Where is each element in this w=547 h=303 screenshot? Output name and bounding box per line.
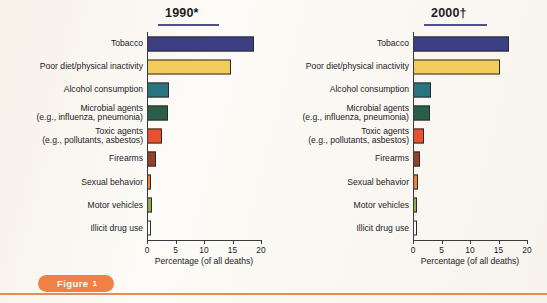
- x-axis-tick-label: 5: [439, 245, 444, 255]
- bar-row: Alcohol consumption: [276, 78, 547, 101]
- bar-row: Poor diet/physical inactivity: [2, 55, 274, 78]
- x-axis-tick-label: 15: [228, 245, 237, 255]
- x-axis-tick: [147, 240, 148, 244]
- bar-row: Microbial agents (e.g., influenza, pneum…: [276, 101, 547, 124]
- x-axis-1990: 05101520 Percentage (of all deaths): [147, 240, 261, 272]
- bar-category-label: Illicit drug use: [2, 224, 147, 233]
- bar-category-label: Toxic agents (e.g., pollutants, asbestos…: [276, 127, 413, 146]
- bar: [147, 36, 254, 51]
- bar-track: [413, 124, 547, 147]
- bar-track: [413, 101, 547, 124]
- bar-track: [147, 194, 274, 217]
- bar-track: [413, 55, 547, 78]
- bar: [413, 105, 430, 120]
- bar: [147, 128, 162, 143]
- x-axis-tick: [413, 240, 414, 244]
- bar-track: [147, 124, 274, 147]
- bar-track: [413, 32, 547, 55]
- bar: [147, 59, 231, 74]
- x-axis-tick-label: 20: [256, 245, 265, 255]
- bar: [413, 36, 509, 51]
- bar: [147, 82, 169, 97]
- bar-row-list-1990: TobaccoPoor diet/physical inactivityAlco…: [2, 32, 274, 240]
- bar-track: [147, 55, 274, 78]
- figure-caption-bar: Figure 1: [0, 272, 547, 303]
- bar-row: Firearms: [2, 148, 274, 171]
- figure-caption-number: 1: [92, 279, 97, 288]
- bar-row: Toxic agents (e.g., pollutants, asbestos…: [276, 124, 547, 147]
- bar: [413, 128, 424, 143]
- plot-area-2000: TobaccoPoor diet/physical inactivityAlco…: [276, 32, 547, 240]
- x-axis-tick: [470, 240, 471, 244]
- x-axis-tick-label: 10: [199, 245, 208, 255]
- bar-track: [147, 78, 274, 101]
- bar-track: [147, 32, 274, 55]
- bar-track: [413, 217, 547, 240]
- bar: [413, 82, 431, 97]
- bar-row: Illicit drug use: [276, 217, 547, 240]
- x-axis-tick-label: 20: [522, 245, 531, 255]
- bar-track: [147, 148, 274, 171]
- bar-category-label: Poor diet/physical inactivity: [276, 62, 413, 71]
- bar-track: [147, 217, 274, 240]
- bar-category-label: Microbial agents (e.g., influenza, pneum…: [276, 104, 413, 123]
- figure-caption-label: Figure: [57, 278, 88, 289]
- bar-category-label: Firearms: [276, 154, 413, 163]
- bar-category-label: Illicit drug use: [276, 224, 413, 233]
- x-axis-tick: [442, 240, 443, 244]
- x-axis-tick: [527, 240, 528, 244]
- bar-row: Motor vehicles: [276, 194, 547, 217]
- bar-track: [413, 78, 547, 101]
- x-axis-tick-label: 10: [465, 245, 474, 255]
- bar-row: Motor vehicles: [2, 194, 274, 217]
- figure-caption-pill: Figure 1: [38, 275, 114, 292]
- bar-category-label: Tobacco: [276, 39, 413, 48]
- bar-category-label: Microbial agents (e.g., influenza, pneum…: [2, 104, 147, 123]
- bar-category-label: Motor vehicles: [276, 201, 413, 210]
- bar-row-list-2000: TobaccoPoor diet/physical inactivityAlco…: [276, 32, 547, 240]
- x-axis-tick-label: 0: [411, 245, 416, 255]
- figure-root: 1990* TobaccoPoor diet/physical inactivi…: [0, 0, 547, 303]
- x-axis-title-2000: Percentage (of all deaths): [413, 256, 527, 266]
- chart-title-1990: 1990*: [165, 6, 199, 20]
- bar-row: Firearms: [276, 148, 547, 171]
- chart-title-rule-2000: [424, 24, 487, 26]
- bar-category-label: Alcohol consumption: [2, 85, 147, 94]
- bar-track: [413, 148, 547, 171]
- x-axis-tick: [233, 240, 234, 244]
- bar-row: Microbial agents (e.g., influenza, pneum…: [2, 101, 274, 124]
- bar-row: Poor diet/physical inactivity: [276, 55, 547, 78]
- x-axis-tick-label: 5: [173, 245, 178, 255]
- x-axis-tick: [499, 240, 500, 244]
- bar-category-label: Motor vehicles: [2, 201, 147, 210]
- x-axis-tick: [261, 240, 262, 244]
- x-axis-tick-label: 15: [494, 245, 503, 255]
- figure-caption-rule: [0, 293, 547, 295]
- bar-row: Sexual behavior: [276, 171, 547, 194]
- x-axis-tick: [204, 240, 205, 244]
- bar-row: Toxic agents (e.g., pollutants, asbestos…: [2, 124, 274, 147]
- charts-area: 1990* TobaccoPoor diet/physical inactivi…: [0, 0, 547, 272]
- chart-title-2000: 2000†: [431, 6, 467, 20]
- chart-panel-2000: 2000† TobaccoPoor diet/physical inactivi…: [276, 0, 547, 272]
- x-axis-tick-label: 0: [145, 245, 150, 255]
- bar-category-label: Firearms: [2, 154, 147, 163]
- bar-category-label: Poor diet/physical inactivity: [2, 62, 147, 71]
- bar-row: Illicit drug use: [2, 217, 274, 240]
- x-axis-2000: 05101520 Percentage (of all deaths): [413, 240, 527, 272]
- bar-category-label: Alcohol consumption: [276, 85, 413, 94]
- category-axis-spine-2000: [413, 32, 414, 240]
- bar-category-label: Sexual behavior: [276, 178, 413, 187]
- bar-track: [413, 194, 547, 217]
- bar: [413, 59, 500, 74]
- x-axis-title-1990: Percentage (of all deaths): [147, 256, 261, 266]
- chart-title-rule-1990: [158, 24, 219, 26]
- bar-row: Tobacco: [276, 32, 547, 55]
- bar-category-label: Tobacco: [2, 39, 147, 48]
- bar-row: Alcohol consumption: [2, 78, 274, 101]
- bar-category-label: Sexual behavior: [2, 178, 147, 187]
- bar-row: Sexual behavior: [2, 171, 274, 194]
- chart-panel-1990: 1990* TobaccoPoor diet/physical inactivi…: [2, 0, 274, 272]
- bar-row: Tobacco: [2, 32, 274, 55]
- bar-track: [413, 171, 547, 194]
